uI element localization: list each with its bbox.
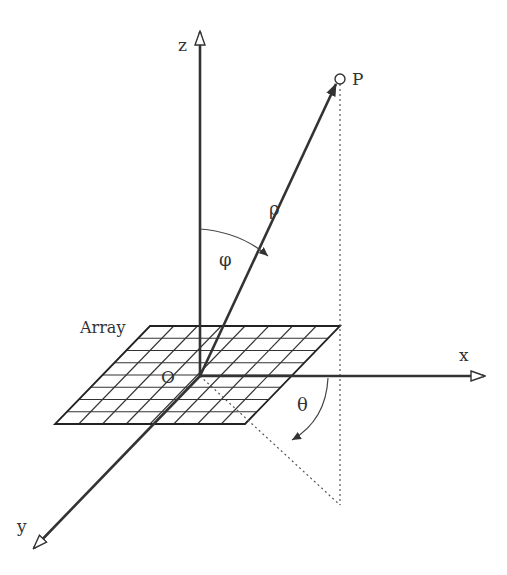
x-axis-label: x — [459, 345, 469, 365]
projection-line — [200, 376, 340, 505]
z-axis-label: z — [178, 35, 187, 55]
array-label: Array — [79, 318, 125, 337]
spherical-coordinate-diagram: z x y O P ρ φ θ Array — [0, 0, 507, 575]
theta-label: θ — [297, 394, 308, 415]
y-axis — [34, 376, 200, 548]
y-axis-label: y — [16, 516, 27, 536]
point-p-marker — [335, 74, 345, 84]
origin-label: O — [161, 367, 175, 387]
rho-label: ρ — [269, 198, 280, 219]
point-p-label: P — [352, 69, 363, 89]
phi-label: φ — [219, 249, 232, 270]
rho-vector — [200, 84, 336, 376]
